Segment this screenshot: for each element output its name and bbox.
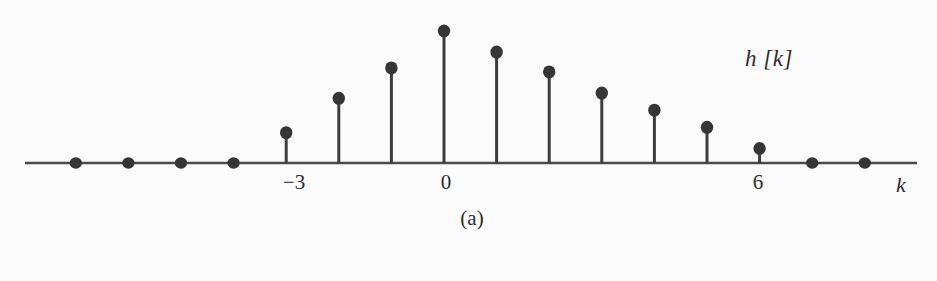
data-point-marker [490, 46, 502, 59]
data-point-marker [806, 157, 818, 168]
data-point-marker [543, 65, 555, 78]
x-tick-label-zero: 0 [441, 172, 452, 193]
data-point-marker [175, 157, 187, 168]
figure-panel: −3 0 6 k h [k] (a) [0, 0, 937, 281]
data-point-marker [701, 121, 713, 134]
data-point-marker [70, 157, 82, 168]
data-point-marker [280, 126, 292, 139]
data-point-marker [753, 142, 765, 155]
x-tick-label-minus-3: −3 [283, 172, 305, 193]
data-point-marker [333, 92, 345, 105]
data-point-marker [596, 87, 608, 100]
stem-lines-group [286, 31, 759, 163]
data-point-marker [648, 104, 660, 117]
data-point-marker [385, 61, 397, 74]
subfigure-caption-a: (a) [460, 208, 483, 229]
data-point-marker [438, 24, 450, 37]
x-axis-label-k: k [896, 174, 906, 196]
data-point-marker [122, 157, 134, 168]
x-tick-label-six: 6 [753, 172, 764, 193]
stem-plot [0, 0, 937, 281]
data-point-marker [859, 157, 871, 168]
data-point-marker [227, 157, 239, 168]
signal-label-hk: h [k] [745, 47, 793, 70]
